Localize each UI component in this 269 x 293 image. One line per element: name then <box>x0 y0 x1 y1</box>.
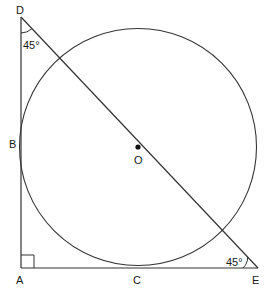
segment-de <box>21 17 258 268</box>
label-angle-d: 45° <box>23 39 40 51</box>
angle-arc-d <box>21 29 32 33</box>
geometry-diagram: D 45° B O A C 45° E <box>0 0 269 293</box>
center-point-o <box>135 144 140 149</box>
label-angle-e: 45° <box>226 256 243 268</box>
label-c: C <box>133 274 141 286</box>
label-o: O <box>134 154 143 166</box>
label-a: A <box>16 274 24 286</box>
label-e: E <box>252 274 259 286</box>
label-b: B <box>9 138 16 150</box>
label-d: D <box>16 4 24 16</box>
right-angle-mark <box>21 255 34 268</box>
angle-arc-e <box>243 257 248 268</box>
